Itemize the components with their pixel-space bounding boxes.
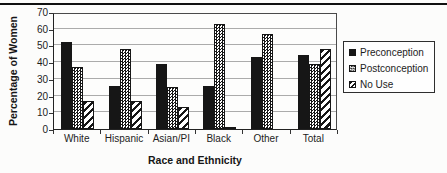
y-tick-label-40: 40 [20,57,48,69]
y-tick-label-30: 30 [20,74,48,86]
category-label-other: Other [242,133,289,145]
gridline-10 [54,111,336,112]
bar-preconception-white [61,42,72,129]
legend-item-preconception: Preconception [344,44,434,60]
bar-postconception-asian-pi [167,87,178,129]
bar-preconception-asian-pi [156,64,167,129]
bar-preconception-total [298,55,309,129]
bar-preconception-hispanic [109,86,120,129]
gridline-60 [54,28,336,29]
y-tick-label-10: 10 [20,107,48,119]
y-tick-label-70: 70 [20,7,48,19]
y-tick-label-50: 50 [20,40,48,52]
bar-no-use-white [83,101,94,129]
gridline-50 [54,44,336,45]
legend-item-no-use: No Use [344,76,434,92]
category-label-asian-pi: Asian/PI [148,133,195,145]
legend-item-postconception: Postconception [344,60,434,76]
legend-label: Postconception [360,63,428,74]
y-tick-label-60: 60 [20,24,48,36]
bar-postconception-black [214,24,225,129]
category-label-white: White [53,133,100,145]
legend-marker-stripe-icon [349,81,356,88]
x-tick-mark-6 [337,130,338,134]
bar-postconception-white [72,67,83,129]
plot-area [53,13,337,130]
category-label-black: Black [195,133,242,145]
bar-no-use-asian-pi [178,107,189,129]
category-label-hispanic: Hispanic [100,133,147,145]
bar-postconception-hispanic [120,49,131,129]
bar-no-use-black [225,127,236,129]
category-label-total: Total [290,133,337,145]
bar-chart-figure: Percentage of Women 010203040506070 Whit… [0,0,447,173]
gridline-40 [54,61,336,62]
gridline-20 [54,95,336,96]
gridline-30 [54,78,336,79]
bar-postconception-other [262,34,273,129]
bar-postconception-total [309,64,320,129]
bar-no-use-hispanic [131,101,142,129]
y-axis-title-text: Percentage of Women [7,16,19,126]
legend-box: PreconceptionPostconceptionNo Use [343,41,435,93]
legend-label: Preconception [360,47,424,58]
bar-preconception-black [203,86,214,129]
legend-label: No Use [360,79,393,90]
bar-preconception-other [251,57,262,129]
figure-top-rule [0,3,447,5]
legend-marker-checker-icon [349,65,356,72]
y-tick-label-0: 0 [20,124,48,136]
y-tick-label-20: 20 [20,91,48,103]
x-axis-title: Race and Ethnicity [53,154,337,166]
bar-no-use-total [320,49,331,129]
legend-marker-solid-icon [349,49,356,56]
